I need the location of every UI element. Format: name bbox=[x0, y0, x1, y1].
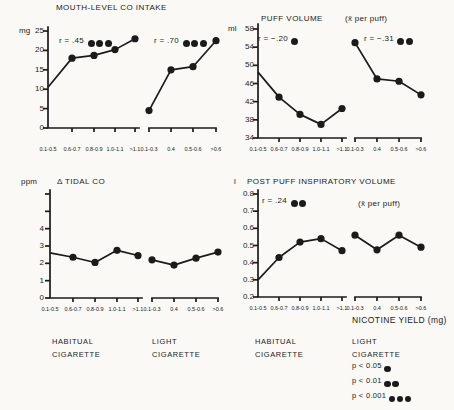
y-tick-label: 15 bbox=[14, 65, 44, 75]
panel-2-light-line bbox=[355, 43, 421, 95]
y-tick-label: 10 bbox=[14, 84, 44, 94]
r-value: r = .24 bbox=[262, 193, 287, 205]
data-point bbox=[351, 232, 358, 239]
data-point bbox=[373, 246, 380, 253]
significance-dot bbox=[392, 381, 399, 388]
data-point bbox=[170, 261, 177, 268]
data-point bbox=[131, 35, 138, 42]
significance-dot bbox=[291, 200, 298, 207]
data-point bbox=[338, 247, 345, 254]
data-point bbox=[113, 247, 120, 254]
panel2-subtitle: (x̄ per puff) bbox=[345, 14, 387, 23]
x-tick-label: >0.6 bbox=[204, 306, 232, 313]
panel1-light-r-annotation: r = .70 bbox=[154, 33, 207, 51]
significance-dot bbox=[88, 40, 95, 47]
y-tick-label: 50 bbox=[224, 60, 254, 70]
panel2-title: PUFF VOLUME bbox=[261, 14, 323, 23]
data-point bbox=[275, 254, 282, 261]
legend-row-p01: p < 0.01 bbox=[352, 373, 411, 388]
data-point bbox=[417, 244, 424, 251]
legend-label: p < 0.001 bbox=[352, 388, 386, 400]
group-label-line: LIGHT bbox=[152, 337, 177, 346]
significance-dot bbox=[96, 40, 103, 47]
y-tick-label: 34 bbox=[224, 133, 254, 143]
x-tick-label: >0.6 bbox=[202, 146, 230, 153]
data-point bbox=[212, 37, 219, 44]
y-tick-label: 0.4 bbox=[224, 258, 254, 268]
data-point bbox=[296, 238, 303, 245]
significance-dot bbox=[406, 38, 413, 45]
panel4-subtitle: (x̄ per puff) bbox=[358, 199, 400, 208]
group-label-habitual-2: HABITUALCIGARETTE bbox=[255, 335, 303, 361]
group-label-line: CIGARETTE bbox=[52, 350, 100, 359]
significance-dots bbox=[289, 193, 306, 211]
y-tick-label: 0.5 bbox=[224, 241, 254, 251]
significance-dot bbox=[405, 396, 412, 403]
data-point bbox=[395, 232, 402, 239]
panel-3 bbox=[45, 190, 222, 302]
y-tick-label: 0 bbox=[14, 123, 44, 133]
significance-dot bbox=[397, 38, 404, 45]
y-tick-label: 0.7 bbox=[224, 206, 254, 216]
significance-dots bbox=[387, 388, 411, 406]
legend-label: p < 0.01 bbox=[352, 373, 382, 385]
panel-3-light-line bbox=[152, 252, 218, 265]
y-tick-label: 46 bbox=[224, 79, 254, 89]
r-value: r = −.31 bbox=[364, 31, 394, 43]
significance-legend: p < 0.05 p < 0.01 p < 0.001 bbox=[352, 358, 411, 403]
data-point bbox=[91, 259, 98, 266]
data-point bbox=[417, 91, 424, 98]
data-point bbox=[317, 121, 324, 128]
data-point bbox=[145, 107, 152, 114]
group-label-light-1: LIGHTCIGARETTE bbox=[152, 335, 200, 361]
panel4-y-unit: l bbox=[234, 177, 236, 186]
y-tick-label: 42 bbox=[224, 97, 254, 107]
y-tick-label: 58 bbox=[224, 24, 254, 34]
data-point bbox=[338, 105, 345, 112]
y-tick-label: 4 bbox=[14, 224, 44, 234]
group-label-line: CIGARETTE bbox=[152, 350, 200, 359]
data-point bbox=[192, 255, 199, 262]
data-point bbox=[296, 111, 303, 118]
figure-canvas: MOUTH-LEVEL CO INTAKE PUFF VOLUME (x̄ pe… bbox=[0, 0, 454, 410]
nicotine-yield-axis-label: NICOTINE YIELD (mg) bbox=[352, 315, 447, 325]
panel1-habitual-r-annotation: r = .45 bbox=[59, 33, 112, 51]
panel3-title: Δ TIDAL CO bbox=[57, 177, 105, 186]
legend-label: p < 0.05 bbox=[352, 358, 382, 370]
x-tick-label: >0.6 bbox=[407, 305, 435, 312]
data-point bbox=[111, 46, 118, 53]
group-label-habitual-1: HABITUALCIGARETTE bbox=[52, 335, 100, 361]
significance-dot bbox=[397, 396, 404, 403]
y-tick-label: 25 bbox=[14, 26, 44, 36]
panel-4-light-line bbox=[355, 235, 421, 250]
y-tick-label: 0.8 bbox=[224, 189, 254, 199]
significance-dot bbox=[384, 381, 391, 388]
legend-row-p05: p < 0.05 bbox=[352, 358, 411, 373]
data-point bbox=[373, 75, 380, 82]
significance-dots bbox=[290, 31, 299, 49]
r-value: r = .70 bbox=[154, 33, 179, 45]
r-value: r = −.20 bbox=[258, 31, 288, 43]
significance-dot bbox=[105, 40, 112, 47]
panel2-light-r-annotation: r = −.31 bbox=[364, 31, 413, 49]
data-point bbox=[351, 39, 358, 46]
panel-1-light-line bbox=[149, 41, 216, 111]
significance-dot bbox=[183, 40, 190, 47]
x-tick-label: >0.6 bbox=[407, 146, 435, 153]
data-point bbox=[134, 252, 141, 259]
y-tick-label: 0 bbox=[14, 293, 44, 303]
data-point bbox=[69, 254, 76, 261]
group-label-line: LIGHT bbox=[352, 337, 377, 346]
significance-dot bbox=[384, 366, 391, 373]
data-point bbox=[148, 256, 155, 263]
data-point bbox=[395, 78, 402, 85]
y-tick-label: 5 bbox=[14, 104, 44, 114]
data-point bbox=[275, 94, 282, 101]
panel1-title: MOUTH-LEVEL CO INTAKE bbox=[56, 3, 167, 12]
significance-dot bbox=[389, 396, 396, 403]
y-tick-label: 1 bbox=[14, 276, 44, 286]
significance-dots bbox=[86, 33, 112, 51]
y-tick-label: 54 bbox=[224, 42, 254, 52]
panel4-habitual-r-annotation: r = .24 bbox=[262, 193, 306, 211]
panel-3-axes bbox=[50, 190, 142, 298]
